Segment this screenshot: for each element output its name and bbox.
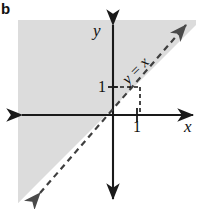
- y-axis-tick-label-1: 1: [98, 79, 106, 95]
- x-axis-tick-label-1: 1: [133, 119, 141, 135]
- figure-container: y b: [0, 0, 200, 209]
- shaded-region-fill-main: [18, 20, 200, 203]
- shaded-region-group: [18, 18, 200, 203]
- panel-label: b: [1, 1, 10, 16]
- y-axis-label: y: [93, 22, 101, 39]
- x-axis-label: x: [184, 118, 192, 135]
